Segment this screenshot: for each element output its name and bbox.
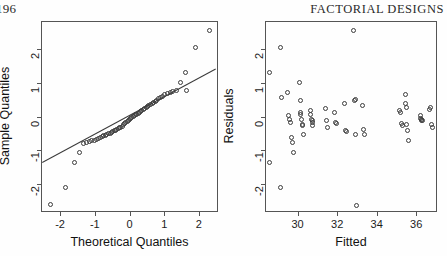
- x-axis-tick: [95, 212, 96, 216]
- data-point: [193, 45, 198, 50]
- data-point: [324, 118, 329, 123]
- x-axis-tick-label: 1: [161, 218, 167, 230]
- x-axis-tick: [298, 212, 299, 216]
- residuals-plot-box: [265, 21, 437, 212]
- y-axis-tick-label: 1: [29, 82, 41, 98]
- data-point: [353, 132, 358, 137]
- data-point: [77, 150, 82, 155]
- x-axis-tick-label: -1: [90, 218, 100, 230]
- data-point: [332, 110, 337, 115]
- y-axis-tick-label: -2: [253, 183, 265, 199]
- data-point: [323, 106, 328, 111]
- data-point: [48, 202, 53, 207]
- residuals-y-axis-title: Residuals: [222, 80, 236, 152]
- qq-plot-box: [41, 21, 218, 212]
- data-point: [285, 90, 290, 95]
- data-point: [279, 95, 284, 100]
- x-axis-tick: [164, 212, 165, 216]
- y-axis-tick-label: -2: [29, 183, 41, 199]
- data-point: [360, 103, 365, 108]
- y-axis-tick-label: 0: [253, 116, 265, 132]
- x-axis-tick-label: 2: [196, 218, 202, 230]
- y-axis-tick-label: 1: [253, 82, 265, 98]
- data-point: [278, 185, 283, 190]
- x-axis-tick-label: 0: [126, 218, 132, 230]
- y-axis-tick-label: 2: [253, 48, 265, 64]
- x-axis-tick-label: 34: [371, 218, 383, 230]
- book-page: 196 FACTORIAL DESIGNS -2-1012 -2-1012 Th…: [0, 0, 447, 256]
- data-point: [403, 92, 408, 97]
- data-point: [430, 125, 435, 130]
- data-point: [325, 125, 330, 130]
- data-point: [297, 80, 302, 85]
- data-point: [308, 112, 313, 117]
- data-point: [361, 127, 366, 132]
- qq-plot-area: [42, 22, 217, 211]
- y-axis-tick-label: 0: [29, 116, 41, 132]
- residuals-plot-area: [266, 22, 436, 211]
- x-axis-tick-label: 30: [291, 218, 303, 230]
- x-axis-tick: [416, 212, 417, 216]
- x-axis-tick: [337, 212, 338, 216]
- residuals-panel: 30323436 -2-1012 Fitted Residuals: [230, 0, 447, 256]
- data-point: [207, 28, 212, 33]
- data-point: [183, 70, 188, 75]
- data-point: [405, 128, 410, 133]
- data-point: [267, 70, 272, 75]
- data-point: [406, 138, 411, 143]
- data-point: [72, 160, 77, 165]
- data-point: [174, 88, 179, 93]
- data-point: [267, 160, 272, 165]
- data-point: [428, 105, 433, 110]
- data-point: [334, 121, 339, 126]
- data-point: [298, 98, 303, 103]
- data-point: [299, 117, 304, 122]
- y-axis-tick-label: 2: [29, 48, 41, 64]
- normal-qq-panel: -2-1012 -2-1012 Theoretical Quantiles Sa…: [0, 0, 230, 256]
- x-axis-tick-label: 32: [331, 218, 343, 230]
- data-point: [404, 122, 409, 127]
- data-point: [310, 123, 315, 128]
- data-point: [362, 132, 367, 137]
- x-axis-tick: [377, 212, 378, 216]
- data-point: [63, 185, 68, 190]
- data-point: [290, 140, 295, 145]
- data-point: [300, 123, 305, 128]
- data-point: [278, 45, 283, 50]
- residuals-x-axis-title: Fitted: [265, 235, 437, 249]
- x-axis-tick: [130, 212, 131, 216]
- data-point: [344, 129, 349, 134]
- x-axis-tick-label: -2: [55, 218, 65, 230]
- data-point: [351, 28, 356, 33]
- y-axis-tick-label: -1: [29, 149, 41, 165]
- data-point: [342, 101, 347, 106]
- data-point: [291, 150, 296, 155]
- data-point: [184, 88, 189, 93]
- x-axis-tick: [199, 212, 200, 216]
- data-point: [288, 120, 293, 125]
- y-axis-tick-label: -1: [253, 149, 265, 165]
- data-point: [398, 110, 403, 115]
- qq-y-axis-title: Sample Quantiles: [0, 61, 12, 171]
- data-point: [353, 97, 358, 102]
- data-point: [301, 132, 306, 137]
- data-point: [404, 105, 409, 110]
- data-point: [420, 118, 425, 123]
- data-point: [298, 112, 303, 117]
- data-point: [354, 203, 359, 208]
- x-axis-tick-label: 36: [410, 218, 422, 230]
- x-axis-tick: [60, 212, 61, 216]
- qq-x-axis-title: Theoretical Quantiles: [41, 235, 218, 249]
- data-point: [178, 80, 183, 85]
